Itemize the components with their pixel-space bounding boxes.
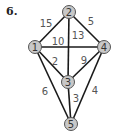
weighted-graph: 155131029634 12345 bbox=[0, 0, 122, 137]
edge-weight-1-3: 2 bbox=[52, 56, 58, 67]
edge-weight-2-4: 5 bbox=[88, 16, 94, 27]
edge-4-5 bbox=[71, 47, 104, 124]
node-5: 5 bbox=[65, 118, 78, 131]
node-label: 5 bbox=[68, 119, 74, 130]
edge-weight-2-3: 13 bbox=[72, 30, 85, 41]
edge-weight-3-5: 3 bbox=[73, 93, 79, 104]
node-label: 1 bbox=[32, 42, 38, 53]
edge-weight-3-4: 9 bbox=[81, 55, 87, 66]
edge-weight-1-5: 6 bbox=[42, 86, 48, 97]
node-label: 3 bbox=[65, 77, 71, 88]
edge-weight-4-5: 4 bbox=[92, 85, 98, 96]
edge-weight-1-2: 15 bbox=[40, 18, 53, 29]
node-4: 4 bbox=[98, 41, 111, 54]
node-1: 1 bbox=[29, 41, 42, 54]
edge-weight-1-4: 10 bbox=[52, 36, 65, 47]
node-label: 4 bbox=[101, 42, 107, 53]
node-2: 2 bbox=[63, 6, 76, 19]
graph-edges bbox=[35, 12, 104, 124]
node-label: 2 bbox=[66, 7, 72, 18]
node-3: 3 bbox=[62, 76, 75, 89]
